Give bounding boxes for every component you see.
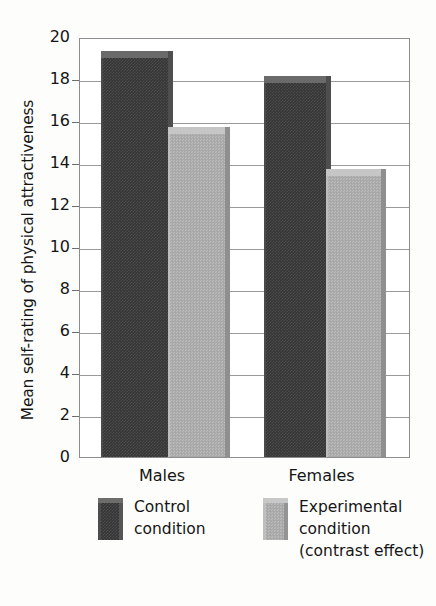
bar-females-control [264,83,326,458]
legend-label-control-line1: Control [134,496,206,518]
y-tick-label: 6 [36,321,70,340]
legend-label-experimental-line1: Experimental [299,496,424,518]
bar-females-experimental [326,176,381,459]
legend-item-experimental: Experimental condition (contrast effect) [263,496,424,562]
y-tick-label: 20 [36,27,70,46]
legend-swatch-experimental-icon [263,498,288,540]
y-tick-label: 2 [36,405,70,424]
bar-chart: Mean self-rating of physical attractiven… [0,0,436,606]
plot-area [79,38,410,458]
y-tick-mark [72,374,79,375]
y-tick-mark [72,332,79,333]
y-tick-mark [72,416,79,417]
y-tick-label: 10 [36,237,70,256]
y-tick-label: 16 [36,111,70,130]
legend-label-experimental-line3: (contrast effect) [299,540,424,562]
x-tick-label-males: Males [102,466,222,485]
y-tick-label: 4 [36,363,70,382]
y-tick-mark [72,290,79,291]
y-tick-mark [72,206,79,207]
legend-swatch-control-icon [98,498,123,540]
y-tick-label: 0 [36,447,70,466]
legend-item-control: Control condition [98,496,206,540]
y-tick-label: 8 [36,279,70,298]
bar-males-control [101,58,168,458]
bar-males-experimental [168,134,225,459]
y-tick-mark [72,80,79,81]
legend-label-control: Control condition [134,496,206,540]
x-tick-label-females: Females [262,466,382,485]
y-tick-mark [72,122,79,123]
chart-legend: Control condition Experimental condition… [0,492,436,602]
y-tick-label: 18 [36,69,70,88]
legend-label-experimental: Experimental condition (contrast effect) [299,496,424,562]
y-tick-label: 12 [36,195,70,214]
legend-label-experimental-line2: condition [299,518,424,540]
y-tick-mark [72,164,79,165]
legend-label-control-line2: condition [134,518,206,540]
y-tick-mark [72,248,79,249]
y-tick-label: 14 [36,153,70,172]
